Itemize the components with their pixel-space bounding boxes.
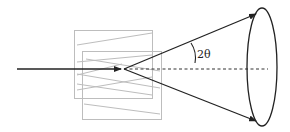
scattering-cone-diagram: 2θ xyxy=(0,0,290,132)
cone-upper-ray xyxy=(124,14,256,69)
lattice-lines xyxy=(77,33,160,114)
cone-lower-ray xyxy=(124,69,256,121)
diagram-canvas xyxy=(0,0,290,132)
cone-base-ellipse xyxy=(247,8,277,126)
angle-arc xyxy=(191,43,196,63)
angle-label-2theta: 2θ xyxy=(197,49,211,60)
